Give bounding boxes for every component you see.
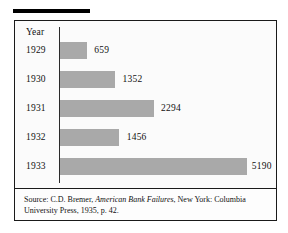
bar-value-1933: 5190 [252,161,272,172]
category-label-1933: 1933 [26,161,56,172]
category-label-1931: 1931 [26,103,56,114]
bar-track-1929: 659 [60,42,272,59]
source-book-title: American Bank Failures [95,195,173,204]
bar-1933 [60,158,247,175]
bar-1930 [60,71,115,88]
bar-track-1931: 2294 [60,100,272,117]
top-decorative-rule [13,9,90,13]
bar-1931 [60,100,154,117]
bar-1932 [60,129,119,146]
bar-value-1931: 2294 [161,103,181,114]
bar-value-1930: 1352 [123,74,143,85]
bar-rows: 1929 659 1930 1352 1931 2294 [15,38,276,183]
bar-row-1931: 1931 2294 [15,96,276,125]
column-header-year: Year [26,27,44,38]
bar-row-1933: 1933 5190 [15,154,276,183]
category-label-1930: 1930 [26,74,56,85]
category-label-1932: 1932 [26,132,56,143]
category-label-1929: 1929 [26,45,56,56]
source-prefix: Source: C.D. Bremer, [24,195,95,204]
bar-track-1933: 5190 [60,158,272,175]
bar-1929 [60,42,87,59]
bar-row-1932: 1932 1456 [15,125,276,154]
bar-value-1932: 1456 [127,132,147,143]
figure-frame: Year 1929 659 1930 1352 1931 [14,20,277,221]
bar-row-1929: 1929 659 [15,38,276,67]
bar-track-1930: 1352 [60,71,272,88]
bar-row-1930: 1930 1352 [15,67,276,96]
chart-plot-area: Year 1929 659 1930 1352 1931 [15,21,276,188]
bar-value-1929: 659 [94,45,109,56]
source-note: Source: C.D. Bremer, American Bank Failu… [15,189,276,220]
bar-track-1932: 1456 [60,129,272,146]
